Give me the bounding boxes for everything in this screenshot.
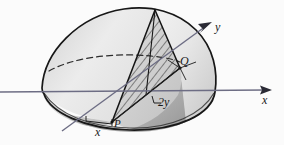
figure-canvas [0,0,284,145]
solid-body [42,8,216,132]
point-p-label: P [114,118,121,129]
point-q-label: Q [180,55,189,67]
dimension-x-label: x [95,126,100,138]
y-axis-arrowhead [198,22,212,33]
x-axis-line [0,90,266,92]
y-axis-label: y [215,21,220,33]
x-axis-label: x [262,94,267,106]
math-figure: y x Q P x 2y [0,0,284,145]
dimension-2y-label: 2y [158,96,169,108]
